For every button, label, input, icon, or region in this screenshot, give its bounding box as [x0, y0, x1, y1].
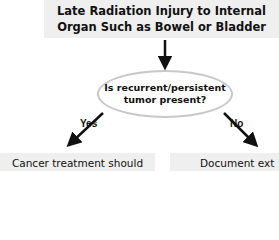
bottom-right-box: Document ext — [170, 153, 279, 171]
no-label: No — [230, 118, 243, 129]
decision-ellipse: Is recurrent/persistent tumor present? — [97, 70, 233, 118]
bottom-left-box: Cancer treatment should — [0, 153, 155, 171]
bottom-left-text: Cancer treatment should — [12, 157, 143, 169]
decision-line2: tumor present? — [99, 94, 231, 106]
yes-label: Yes — [80, 118, 97, 129]
bottom-right-text: Document ext — [200, 157, 274, 169]
decision-line1: Is recurrent/persistent — [99, 82, 231, 94]
